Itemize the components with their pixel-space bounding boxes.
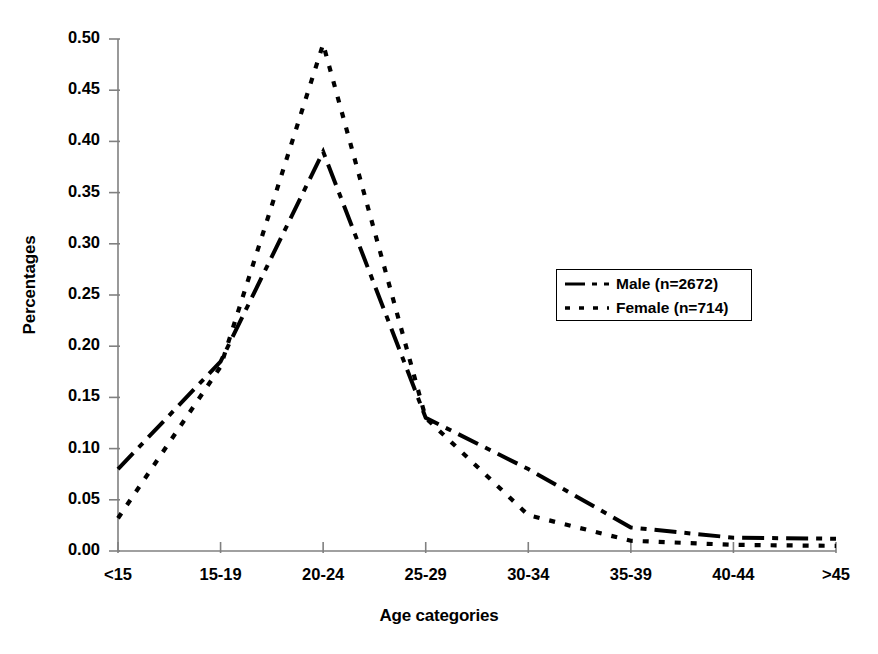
y-axis-tick-label: 0.15 bbox=[30, 386, 100, 405]
x-axis-tick-label: >45 bbox=[791, 565, 878, 584]
legend-item-male: Male (n=2672) bbox=[557, 272, 751, 296]
x-axis-tick-label: 30-34 bbox=[483, 565, 573, 584]
x-axis-title: Age categories bbox=[0, 606, 878, 626]
chart-legend: Male (n=2672) Female (n=714) bbox=[556, 269, 752, 321]
y-axis-tick-label: 0.00 bbox=[30, 540, 100, 559]
x-axis-tick-label: 25-29 bbox=[381, 565, 471, 584]
y-axis-tick-label: 0.40 bbox=[30, 130, 100, 149]
legend-label-female: Female (n=714) bbox=[616, 300, 728, 316]
y-axis-tick-label: 0.30 bbox=[30, 233, 100, 252]
legend-label-male: Male (n=2672) bbox=[616, 276, 718, 292]
x-axis-tick-label: 20-24 bbox=[278, 565, 368, 584]
chart-container: Percentages Age categories 0.500.450.400… bbox=[0, 0, 878, 654]
y-axis-tick-label: 0.05 bbox=[30, 489, 100, 508]
y-axis-tick-label: 0.10 bbox=[30, 438, 100, 457]
y-axis-tick-label: 0.45 bbox=[30, 79, 100, 98]
y-axis-tick-label: 0.25 bbox=[30, 284, 100, 303]
y-axis-tick-label: 0.35 bbox=[30, 182, 100, 201]
series-line-male bbox=[118, 152, 836, 539]
y-axis-tick-label: 0.50 bbox=[30, 28, 100, 47]
plot-area bbox=[0, 0, 878, 654]
legend-swatch-female-line bbox=[563, 301, 611, 315]
y-axis-tick-label: 0.20 bbox=[30, 335, 100, 354]
x-axis-tick-label: <15 bbox=[73, 565, 163, 584]
x-axis-tick-label: 35-39 bbox=[586, 565, 676, 584]
x-axis-tick-label: 15-19 bbox=[176, 565, 266, 584]
legend-swatch-male-line bbox=[563, 277, 611, 291]
x-axis-tick-label: 40-44 bbox=[688, 565, 778, 584]
legend-item-female: Female (n=714) bbox=[557, 296, 751, 320]
